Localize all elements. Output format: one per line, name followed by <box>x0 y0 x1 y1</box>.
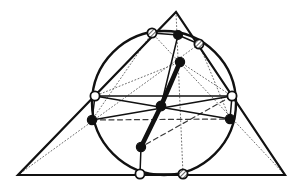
point-hatched-H1 <box>147 28 156 37</box>
geometry-diagram <box>0 0 300 188</box>
point-hatched-H3 <box>178 169 187 178</box>
point-solid-Q3 <box>156 101 166 111</box>
point-solid-Q2 <box>175 57 184 66</box>
figure-root <box>0 0 300 188</box>
point-solid-Q6 <box>225 114 234 123</box>
point-solid-Q1 <box>174 31 183 40</box>
point-hatched-H2 <box>194 39 203 48</box>
point-hollow-P1 <box>90 91 99 100</box>
point-solid-Q5 <box>87 115 96 124</box>
point-hollow-P3 <box>135 169 144 178</box>
point-hollow-P2 <box>227 91 236 100</box>
point-solid-Q4 <box>136 142 145 151</box>
